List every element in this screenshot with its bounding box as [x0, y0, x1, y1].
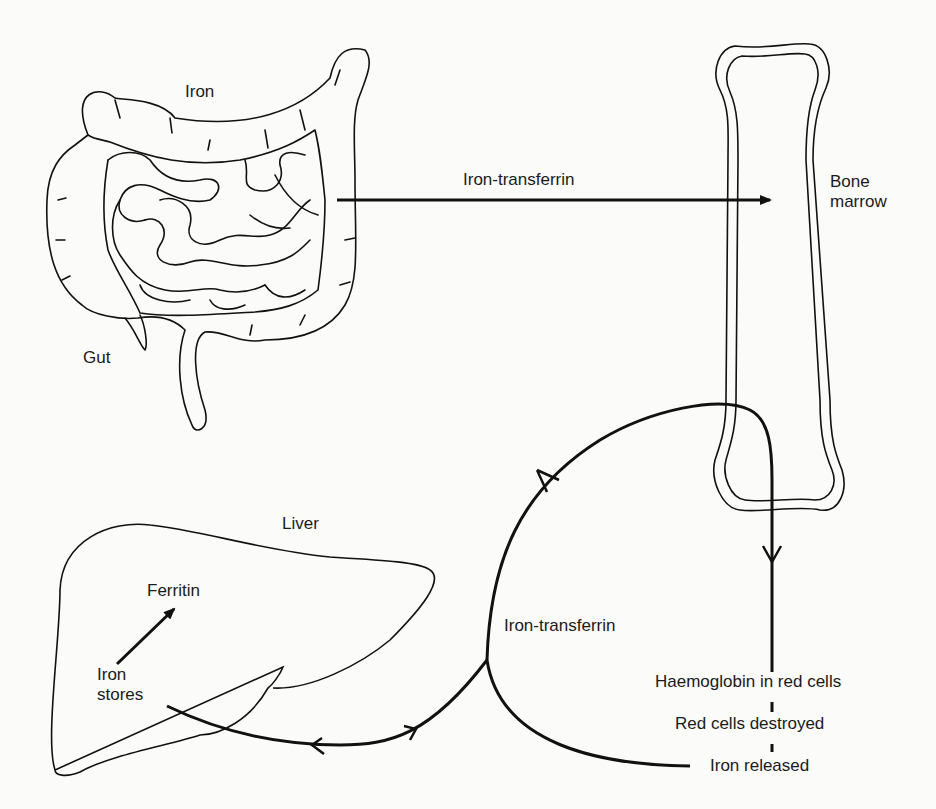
gut-to-bone-flow-label: Iron-transferrin: [463, 170, 574, 190]
gut-label: Gut: [83, 348, 110, 368]
iron-stores-to-ferritin-arrow: [117, 609, 174, 664]
iron-released-label: Iron released: [710, 756, 809, 776]
gut-illustration: [47, 49, 369, 430]
liver-label: Liver: [282, 514, 319, 534]
bone-illustration: [714, 44, 844, 511]
iron-stores-label: Iron stores: [97, 665, 143, 705]
bone-marrow-label: Bone marrow: [830, 172, 887, 212]
red-cells-destroyed-label: Red cells destroyed: [675, 714, 824, 734]
liver-illustration: [52, 524, 435, 775]
haemoglobin-label: Haemoglobin in red cells: [655, 672, 841, 692]
gut-iron-label: Iron: [185, 82, 214, 102]
loop-transferrin-label: Iron-transferrin: [504, 616, 615, 636]
ferritin-label: Ferritin: [147, 581, 200, 601]
